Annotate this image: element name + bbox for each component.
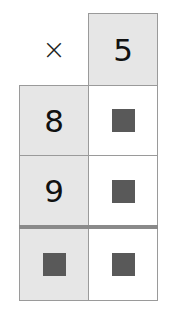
left-factor-cell-2: 9	[19, 155, 89, 227]
blank-square-icon	[112, 180, 135, 203]
left-factor-cell-1: 8	[19, 85, 89, 156]
blank-square-icon	[43, 253, 66, 276]
top-factor-cell: 5	[88, 13, 158, 86]
product-cell-1[interactable]	[88, 85, 158, 156]
multiply-sign: ×	[20, 13, 88, 85]
sum-right-cell[interactable]	[88, 229, 158, 301]
left-factor: 8	[44, 103, 64, 139]
blank-square-icon	[112, 253, 135, 276]
product-cell-2[interactable]	[88, 155, 158, 227]
top-factor: 5	[113, 32, 133, 68]
left-factor: 9	[44, 173, 64, 209]
sum-left-cell[interactable]	[19, 229, 89, 301]
blank-square-icon	[112, 109, 135, 132]
